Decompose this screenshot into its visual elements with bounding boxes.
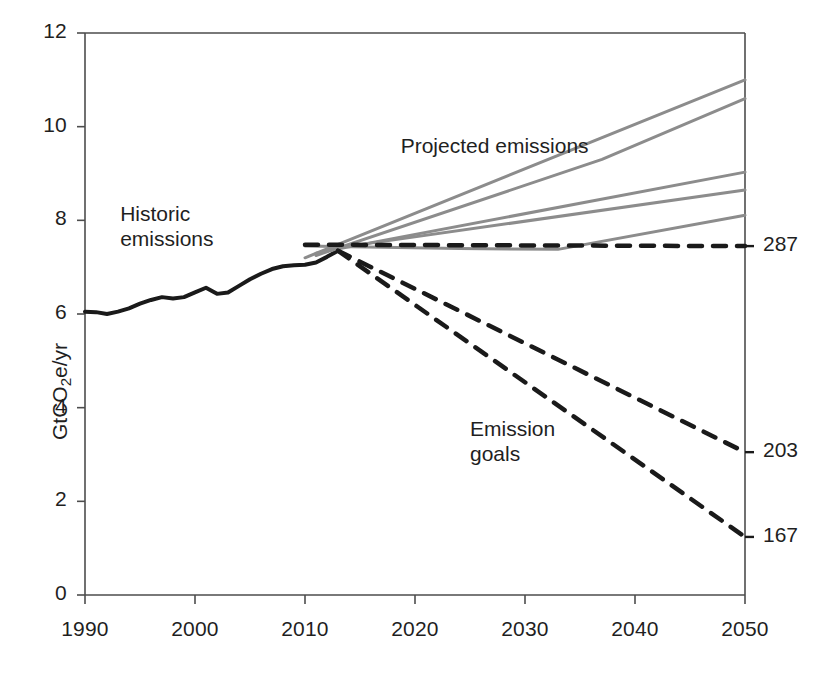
plot-canvas: [0, 0, 830, 676]
emissions-chart: 024681012 1990200020102020203020402050 H…: [0, 0, 830, 676]
y-tick-label-0: 0: [5, 581, 67, 605]
y-axis-title: GtCO2e/yr: [48, 343, 74, 440]
y-tick-label-8: 8: [5, 206, 67, 230]
x-tick-label-2000: 2000: [150, 617, 240, 641]
x-tick-label-2040: 2040: [590, 617, 680, 641]
y-axis-title-post: e/yr: [48, 343, 71, 378]
series-projection-b: [316, 99, 745, 256]
y-axis-title-pre: GtCO: [48, 386, 71, 440]
series-projection-d: [327, 190, 745, 249]
end-label-203: 203: [763, 438, 798, 462]
series-emission-goal-167: [338, 251, 745, 537]
y-tick-label-2: 2: [5, 487, 67, 511]
y-tick-label-6: 6: [5, 300, 67, 324]
x-tick-label-1990: 1990: [40, 617, 130, 641]
end-label-167: 167: [763, 523, 798, 547]
y-tick-label-12: 12: [5, 19, 67, 43]
annotation-emission: Emission goals: [470, 417, 555, 466]
axis-frame: [85, 33, 745, 595]
annotation-projected-emissions: Projected emissions: [401, 134, 589, 159]
annotation-historic: Historic emissions: [120, 202, 213, 251]
y-axis-title-subscript: 2: [57, 378, 74, 386]
x-tick-label-2020: 2020: [370, 617, 460, 641]
end-label-287: 287: [763, 232, 798, 256]
x-tick-label-2050: 2050: [700, 617, 790, 641]
series-historic-emissions: [85, 251, 338, 314]
series-projection-a-highest-: [305, 80, 745, 258]
x-tick-label-2030: 2030: [480, 617, 570, 641]
y-tick-label-10: 10: [5, 113, 67, 137]
x-tick-label-2010: 2010: [260, 617, 350, 641]
